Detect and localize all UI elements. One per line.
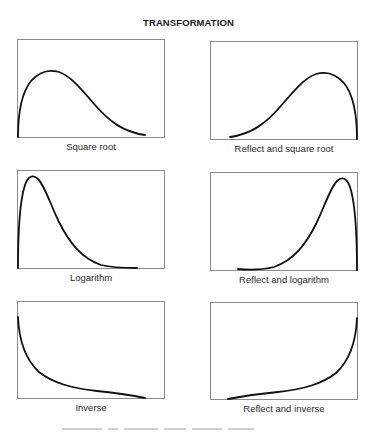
plot-frame: [18, 40, 165, 138]
panel-label: Square root: [17, 141, 165, 152]
panel-label: Reflect and square root: [210, 143, 358, 154]
plot-frame: [211, 173, 358, 271]
panel-reflect-square-root: Reflect and square root: [210, 41, 358, 154]
plot-frame: [211, 303, 358, 400]
distribution-plot: [210, 41, 358, 140]
distribution-plot: [210, 172, 358, 271]
distribution-curve: [238, 178, 357, 270]
panel-label: Reflect and inverse: [210, 403, 358, 414]
panel-logarithm: Logarithm: [17, 170, 165, 283]
distribution-curve: [18, 71, 145, 137]
distribution-plot: [17, 170, 165, 269]
panel-label: Reflect and logarithm: [210, 274, 358, 285]
panel-reflect-inverse: Reflect and inverse: [210, 302, 358, 414]
distribution-curve: [228, 318, 357, 399]
panel-reflect-logarithm: Reflect and logarithm: [210, 172, 358, 285]
panel-label: Logarithm: [17, 272, 165, 283]
plot-frame: [18, 302, 165, 399]
panel-inverse: Inverse: [17, 301, 165, 413]
distribution-curve: [18, 176, 137, 268]
distribution-plot: [210, 302, 358, 400]
figure-title: TRANSFORMATION: [0, 17, 377, 28]
truncated-caption: [62, 428, 292, 433]
distribution-plot: [17, 301, 165, 399]
distribution-curve: [230, 73, 357, 139]
panel-square-root: Square root: [17, 39, 165, 152]
panel-label: Inverse: [17, 402, 165, 413]
distribution-plot: [17, 39, 165, 138]
plot-frame: [211, 42, 358, 140]
plot-frame: [18, 171, 165, 269]
distribution-curve: [18, 317, 145, 398]
